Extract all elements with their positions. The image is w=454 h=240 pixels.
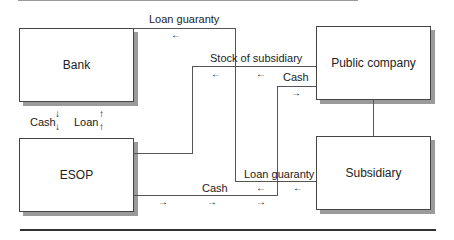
arrow-right-icon: →: [158, 197, 168, 207]
public-company-box: Public company: [316, 26, 431, 100]
arrow-down-icon: ↓: [55, 122, 60, 132]
bottom-rule: [20, 229, 436, 231]
cash-public-label: Cash: [283, 71, 309, 83]
esop-box: ESOP: [19, 138, 134, 212]
stock-line-vertical: [192, 66, 193, 154]
public-subsidiary-connector: [373, 99, 374, 136]
arrow-down-icon: ↓: [55, 109, 60, 119]
arrow-left-icon: ←: [256, 183, 266, 193]
subsidiary-label: Subsidiary: [345, 166, 401, 180]
esop-label: ESOP: [60, 168, 93, 182]
cash-bank-label: Cash: [30, 116, 56, 128]
bank-label: Bank: [63, 58, 90, 72]
arrow-left-icon: ←: [256, 69, 266, 79]
arrow-right-icon: →: [291, 88, 301, 98]
arrow-left-icon: ←: [293, 183, 303, 193]
public-company-label: Public company: [331, 56, 416, 70]
loan-guaranty-line-bottom: [235, 181, 316, 182]
arrow-right-icon: →: [256, 197, 266, 207]
loan-guaranty-top-label: Loan guaranty: [149, 13, 219, 25]
stock-line-bottom: [133, 153, 193, 154]
arrow-left-icon: ←: [171, 30, 181, 40]
arrow-up-icon: ↑: [99, 122, 104, 132]
arrow-right-icon: →: [207, 197, 217, 207]
arrow-up-icon: ↑: [99, 109, 104, 119]
arrow-left-icon: ←: [211, 69, 221, 79]
subsidiary-box: Subsidiary: [316, 136, 431, 210]
cash-esop-label: Cash: [202, 182, 228, 194]
loan-guaranty-line-top: [133, 28, 236, 29]
loan-bank-label: Loan: [74, 116, 98, 128]
stock-line-top: [192, 66, 316, 67]
loan-guaranty-bottom-label: Loan guaranty: [244, 168, 314, 180]
bank-box: Bank: [19, 28, 134, 102]
stock-of-subsidiary-label: Stock of subsidiary: [210, 52, 302, 64]
top-rule: [18, 0, 358, 1]
